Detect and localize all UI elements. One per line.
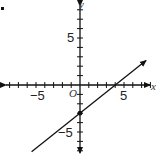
x-axis-label: x: [150, 80, 156, 92]
linear-function-line: [32, 61, 146, 152]
y-axis-label: y: [78, 0, 84, 10]
y-tick-label-5: 5: [67, 30, 74, 45]
y-tick-label-neg5: −5: [58, 125, 73, 140]
coordinate-graph: x y O −5 5 5 −5: [0, 0, 157, 155]
x-tick-label-neg5: −5: [30, 88, 45, 103]
y-intercept-point: [78, 111, 83, 116]
origin-label: O: [69, 87, 77, 99]
x-tick-label-5: 5: [120, 88, 127, 103]
